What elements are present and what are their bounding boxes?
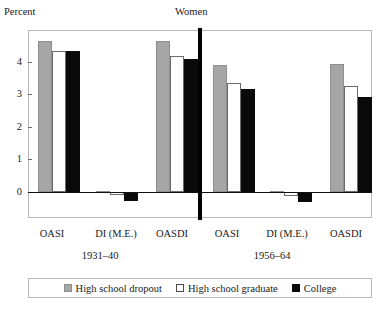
bar-college-4 bbox=[298, 192, 312, 202]
bar-dropout-5 bbox=[330, 64, 344, 192]
chart-legend: High school dropout High school graduate… bbox=[28, 278, 372, 298]
y-tick-label-3: 3 bbox=[6, 88, 22, 99]
bar-college-3 bbox=[241, 89, 255, 192]
bar-graduate-2 bbox=[170, 56, 184, 193]
y-tick-label-4: 4 bbox=[6, 56, 22, 67]
y-tick-1 bbox=[28, 159, 32, 160]
legend-swatch-college-icon bbox=[292, 284, 300, 292]
legend-item-college: College bbox=[292, 283, 337, 294]
legend-swatch-graduate-icon bbox=[176, 284, 184, 292]
legend-swatch-dropout-icon bbox=[64, 284, 72, 292]
x-label-oasdi-1: OASDI bbox=[142, 228, 202, 239]
bar-graduate-5 bbox=[344, 86, 358, 192]
x-label-oasi-1: OASI bbox=[24, 228, 80, 239]
legend-label-college: College bbox=[304, 283, 337, 294]
bar-dropout-2 bbox=[156, 41, 170, 192]
cohort-label-1931-40: 1931–40 bbox=[60, 250, 140, 261]
bar-dropout-0 bbox=[38, 41, 52, 192]
x-label-di-2: DI (M.E.) bbox=[252, 228, 322, 239]
legend-item-dropout: High school dropout bbox=[64, 283, 162, 294]
bar-college-1 bbox=[124, 192, 138, 201]
y-tick-label-1: 1 bbox=[6, 153, 22, 164]
chart-title: Women bbox=[175, 6, 207, 17]
bar-college-2 bbox=[184, 59, 198, 192]
bar-dropout-3 bbox=[213, 65, 227, 192]
x-label-oasi-2: OASI bbox=[198, 228, 256, 239]
bar-graduate-0 bbox=[52, 51, 66, 192]
legend-label-dropout: High school dropout bbox=[76, 283, 162, 294]
y-tick-3 bbox=[28, 94, 32, 95]
chart-container: Percent Women 4 3 2 1 0 OASI DI (M.E.) O… bbox=[0, 0, 381, 309]
y-tick-2 bbox=[28, 127, 32, 128]
bar-college-5 bbox=[358, 97, 372, 192]
x-label-di-1: DI (M.E.) bbox=[82, 228, 150, 239]
x-label-oasdi-2: OASDI bbox=[316, 228, 376, 239]
legend-item-graduate: High school graduate bbox=[176, 283, 278, 294]
y-tick-4 bbox=[28, 62, 32, 63]
y-tick-label-0: 0 bbox=[6, 186, 22, 197]
panel-divider bbox=[198, 28, 202, 220]
y-tick-label-2: 2 bbox=[6, 121, 22, 132]
cohort-label-1956-64: 1956–64 bbox=[232, 250, 312, 261]
legend-label-graduate: High school graduate bbox=[188, 283, 278, 294]
bar-college-0 bbox=[66, 51, 80, 192]
y-axis-title: Percent bbox=[4, 6, 36, 17]
bar-graduate-3 bbox=[227, 83, 241, 192]
